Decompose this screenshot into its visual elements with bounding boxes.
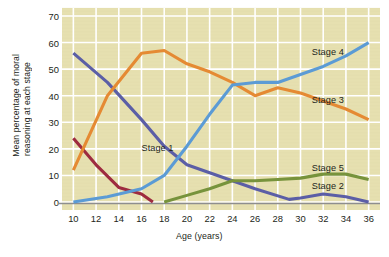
series-label-stage-5: Stage 5 (312, 163, 344, 173)
series-label-stage-4: Stage 4 (312, 47, 344, 57)
series-label-stage-3: Stage 3 (312, 95, 344, 105)
moral-reasoning-line-chart: Mean percentage of moral reasoning at ea… (0, 0, 389, 257)
series-label-stage-1: Stage 1 (142, 143, 174, 153)
series-label-stage-2: Stage 2 (312, 181, 344, 191)
plot-area (0, 0, 389, 257)
